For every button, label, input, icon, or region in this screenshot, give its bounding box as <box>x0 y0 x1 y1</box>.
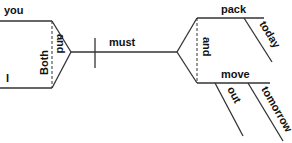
word-out: out <box>225 84 244 105</box>
sentence-diagram: you I Both and must pack move and today … <box>0 0 292 143</box>
word-pack: pack <box>221 3 247 15</box>
predicate-fork-bottom <box>177 52 197 83</box>
word-and-predicate: and <box>201 37 213 57</box>
word-and-subject: and <box>55 34 67 54</box>
word-you: you <box>4 4 24 16</box>
word-i: I <box>6 72 9 84</box>
word-move: move <box>221 68 250 80</box>
predicate-fork-top <box>177 18 197 52</box>
subject-fork-bottom <box>52 52 71 88</box>
word-both: Both <box>38 50 50 75</box>
word-must: must <box>109 36 136 48</box>
